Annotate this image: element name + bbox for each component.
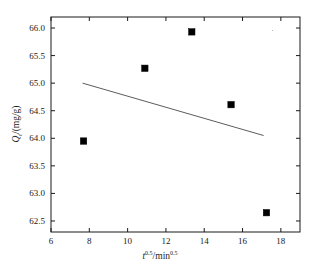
- x-axis-unit-exponent: 0.5: [170, 250, 178, 256]
- data-point-marker: [142, 65, 148, 71]
- y-tick-label: 63.0: [29, 189, 45, 198]
- plot-frame: [51, 17, 300, 232]
- x-axis-title: t0.5/min0.5: [142, 250, 177, 261]
- data-point-marker: [228, 101, 234, 107]
- x-tick-label: 6: [49, 237, 54, 246]
- y-tick-label: 64.5: [29, 106, 45, 115]
- plot-canvas: [0, 0, 321, 273]
- y-tick-label: 66.0: [29, 24, 45, 33]
- scatter-plot-figure: 681012141618 62.563.063.564.064.565.065.…: [0, 0, 321, 273]
- trend-line: [83, 83, 264, 135]
- y-axis-variable: Q: [11, 136, 21, 143]
- data-point-marker: [263, 210, 269, 216]
- y-tick-label: 64.0: [29, 134, 45, 143]
- x-tick-label: 14: [200, 237, 209, 246]
- linear-fit-line: [83, 83, 264, 135]
- y-tick-label: 65.5: [29, 51, 45, 60]
- y-axis-separator: /: [11, 131, 21, 134]
- x-tick-label: 16: [238, 237, 247, 246]
- y-tick-label: 63.5: [29, 161, 45, 170]
- x-tick-label: 18: [276, 237, 285, 246]
- image-speck: [272, 30, 273, 31]
- x-axis-unit: min: [155, 251, 170, 261]
- y-axis-subscript: t: [17, 134, 23, 136]
- data-markers: [80, 29, 269, 216]
- y-axis-title: Qt/(mg/g): [11, 105, 23, 142]
- x-axis-ticks: [51, 17, 281, 232]
- x-tick-label: 10: [123, 237, 132, 246]
- y-tick-label: 65.0: [29, 79, 45, 88]
- data-point-marker: [189, 29, 195, 35]
- data-point-marker: [80, 138, 86, 144]
- x-tick-label: 8: [87, 237, 92, 246]
- y-axis-ticks: [51, 28, 300, 221]
- x-tick-label: 12: [161, 237, 170, 246]
- y-tick-label: 62.5: [29, 216, 45, 225]
- y-axis-unit: (mg/g): [11, 105, 21, 131]
- axes-frame: [51, 17, 300, 232]
